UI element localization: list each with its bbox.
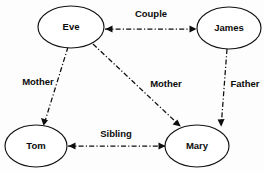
edge-mother-tom-arrowhead	[41, 118, 48, 126]
node-mary-label: Mary	[186, 140, 209, 151]
edge-couple-arrowhead-start	[106, 26, 113, 33]
edge-label-sibling: Sibling	[100, 128, 132, 139]
edge-label-couple: Couple	[135, 8, 167, 19]
diagram-canvas: Couple Mother Mother Father Sibling Eve …	[0, 0, 264, 172]
edge-label-father-mary: Father	[230, 78, 259, 89]
edge-sibling-arrowhead-start	[69, 143, 76, 150]
node-eve-label: Eve	[63, 21, 80, 32]
edge-sibling	[68, 143, 166, 150]
edge-couple	[105, 26, 197, 33]
node-tom[interactable]: Tom	[5, 125, 67, 167]
edge-couple-arrowhead-end	[190, 26, 197, 33]
node-mary[interactable]: Mary	[165, 125, 229, 167]
edge-father-mary-line	[221, 49, 227, 123]
relationship-diagram: Couple Mother Mother Father Sibling Eve …	[0, 0, 264, 172]
edge-mother-mary-arrowhead	[173, 119, 181, 126]
node-james-label: James	[214, 22, 244, 33]
edge-label-mother-mary: Mother	[150, 78, 182, 89]
node-eve[interactable]: Eve	[38, 6, 104, 48]
node-tom-label: Tom	[26, 140, 45, 151]
edge-father-mary-arrowhead	[218, 119, 225, 127]
edge-father-mary	[218, 49, 227, 127]
node-james[interactable]: James	[197, 7, 261, 49]
edge-label-mother-tom: Mother	[22, 76, 54, 87]
